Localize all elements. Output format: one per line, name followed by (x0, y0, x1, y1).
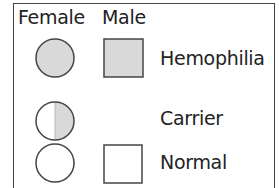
legend-symbols (0, 0, 279, 188)
hemophilia-female-icon (36, 39, 74, 77)
hemophilia-male-icon (104, 39, 143, 77)
carrier-female-icon (36, 102, 74, 140)
carrier-label: Carrier (160, 107, 223, 129)
normal-male-icon (104, 145, 142, 183)
normal-female-icon (36, 144, 74, 182)
normal-label: Normal (160, 151, 227, 173)
hemophilia-label: Hemophilia (160, 47, 265, 69)
